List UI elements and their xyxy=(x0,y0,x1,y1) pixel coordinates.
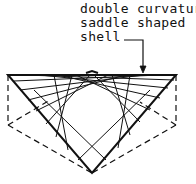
shell-mesh xyxy=(14,75,174,160)
arrow-head-icon xyxy=(140,66,146,73)
dashed-frame xyxy=(8,75,176,173)
shell-outline xyxy=(8,75,176,173)
shell-drawing xyxy=(0,0,196,184)
saddle-shell-diagram: double curvature saddle shaped shell xyxy=(0,0,196,184)
leader-line xyxy=(124,40,143,70)
